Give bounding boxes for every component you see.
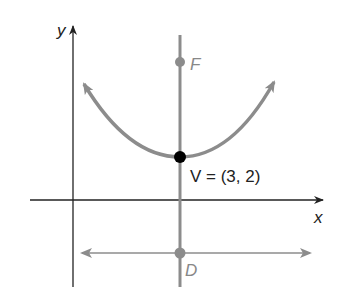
parabola-curve [84,84,180,157]
vertex-point [174,151,186,163]
focus-label: F [190,55,202,74]
vertex-label: V = (3, 2) [190,167,260,186]
parabola-curve [180,82,274,157]
y-axis-label: y [56,21,67,40]
parabola-diagram: y x F V = (3, 2) D [0,0,346,303]
directrix-point-label: D [185,261,197,280]
x-axis-label: x [313,208,323,227]
focus-point [175,57,185,67]
directrix-point [175,248,186,259]
